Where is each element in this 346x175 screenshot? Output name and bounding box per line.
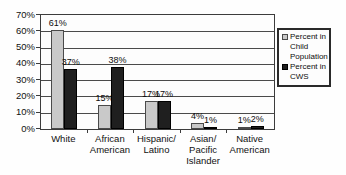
x-category-label-line: White: [40, 133, 87, 144]
y-tick-mark: [36, 14, 40, 15]
x-category-label-line: Islander: [180, 155, 227, 166]
bar-0-4: [238, 127, 251, 129]
x-category-label-line: Pacific: [180, 144, 227, 155]
data-label: 17%: [149, 89, 179, 99]
y-tick-label: 30%: [5, 75, 35, 85]
bar-1-4: [251, 126, 264, 129]
x-tick-mark: [180, 129, 181, 133]
y-tick-label: 10%: [5, 107, 35, 117]
x-category-label: Hispanic/Latino: [133, 133, 180, 166]
x-category-label-line: Asian/: [180, 133, 227, 144]
x-category-label: Asian/PacificIslander: [180, 133, 227, 166]
plot-area: 61%37%15%38%17%17%4%1%1%2%: [40, 14, 275, 130]
y-tick-mark: [36, 112, 40, 113]
x-category-label-line: Native: [226, 133, 273, 144]
bar-1-1: [111, 67, 124, 129]
x-category-label-line: Hispanic/: [133, 133, 180, 144]
data-label: 61%: [43, 18, 73, 28]
x-category-label: AfricanAmerican: [87, 133, 134, 166]
x-category-label-line: American: [226, 144, 273, 155]
gridline: [41, 31, 274, 32]
y-tick-label: 60%: [5, 26, 35, 36]
x-category-label: White: [40, 133, 87, 166]
x-category-label-line: African: [87, 133, 134, 144]
y-tick-label: 50%: [5, 42, 35, 52]
bar-1-3: [204, 127, 217, 129]
y-tick-label: 40%: [5, 58, 35, 68]
legend-swatch-icon: [282, 64, 288, 70]
x-tick-mark: [226, 129, 227, 133]
x-category-label-line: Latino: [133, 144, 180, 155]
legend-item: Percent in Child Population: [282, 32, 327, 62]
x-category-label: NativeAmerican: [226, 133, 273, 166]
y-tick-label: 70%: [5, 10, 35, 20]
gridline: [41, 48, 274, 49]
bar-0-2: [145, 101, 158, 129]
bar-1-2: [158, 101, 171, 129]
y-tick-mark: [36, 128, 40, 129]
x-axis-labels: WhiteAfricanAmericanHispanic/LatinoAsian…: [40, 133, 273, 166]
legend-item: Percent in CWS: [282, 62, 327, 82]
y-tick-mark: [36, 63, 40, 64]
bar-0-1: [98, 105, 111, 129]
y-tick-mark: [36, 30, 40, 31]
legend-swatch-icon: [282, 34, 288, 40]
x-tick-mark: [133, 129, 134, 133]
x-tick-mark: [87, 129, 88, 133]
data-label: 2%: [242, 114, 272, 124]
data-label: 38%: [102, 55, 132, 65]
y-tick-mark: [36, 79, 40, 80]
bar-1-0: [64, 69, 77, 129]
legend: Percent in Child PopulationPercent in CW…: [277, 28, 331, 87]
x-category-label-line: American: [87, 144, 134, 155]
data-label: 1%: [196, 115, 226, 125]
bar-0-0: [51, 30, 64, 129]
bar-chart: 61%37%15%38%17%17%4%1%1%2% 0%10%20%30%40…: [0, 0, 346, 175]
legend-label: Percent in Child Population: [290, 32, 328, 62]
y-tick-label: 0%: [5, 124, 35, 134]
legend-label: Percent in CWS: [290, 62, 327, 82]
y-tick-mark: [36, 95, 40, 96]
y-tick-label: 20%: [5, 91, 35, 101]
data-label: 37%: [56, 57, 86, 67]
y-tick-mark: [36, 47, 40, 48]
